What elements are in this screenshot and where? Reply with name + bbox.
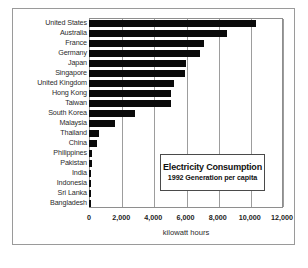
y-axis-label: Pakistan — [14, 159, 87, 167]
bar — [89, 50, 200, 57]
y-axis-label: Bangladesh — [14, 199, 87, 207]
y-axis-label: Malaysia — [14, 119, 87, 127]
bar — [89, 190, 91, 197]
x-axis-title: kilowatt hours — [89, 228, 283, 237]
y-axis-label: Sri Lanka — [14, 189, 87, 197]
x-axis-tick-label: 12,000 — [271, 213, 293, 222]
y-axis-label: South Korea — [14, 109, 87, 117]
x-axis-tick-label: 4,000 — [144, 213, 162, 222]
bar — [89, 70, 185, 77]
y-axis-label: United Kingdom — [14, 79, 87, 87]
bar — [89, 20, 256, 27]
bar — [89, 30, 227, 37]
bar — [89, 100, 171, 107]
y-axis-category-labels: United StatesAustraliaFranceGermanyJapan… — [14, 18, 87, 208]
legend-title: Electricity Consumption — [163, 162, 262, 173]
y-axis-label: Germany — [14, 49, 87, 57]
x-axis-tick-label: 2,000 — [112, 213, 130, 222]
bar — [89, 60, 186, 67]
bar — [89, 90, 171, 97]
bar — [89, 180, 91, 187]
x-axis-tick-label: 6,000 — [177, 213, 195, 222]
y-axis-label: France — [14, 39, 87, 47]
legend-subtitle: 1992 Generation per capita — [168, 173, 257, 183]
x-axis-tick-labels: 02,0004,0006,0008,00010,00012,000 — [0, 213, 308, 225]
x-axis-tick-label: 10,000 — [239, 213, 261, 222]
y-axis-label: Taiwan — [14, 99, 87, 107]
y-axis-label: Indonesia — [14, 179, 87, 187]
y-axis-label: India — [14, 169, 87, 177]
y-axis-label: Singapore — [14, 69, 87, 77]
bar — [89, 120, 115, 127]
bar — [89, 130, 99, 137]
x-axis-tick-label: 8,000 — [209, 213, 227, 222]
y-axis-label: Japan — [14, 59, 87, 67]
x-axis-tick-label: 0 — [87, 213, 91, 222]
bar — [89, 160, 92, 167]
y-axis-label: Thailand — [14, 129, 87, 137]
y-axis-label: China — [14, 139, 87, 147]
legend-callout-box: Electricity Consumption 1992 Generation … — [160, 154, 265, 191]
y-axis-label: Australia — [14, 29, 87, 37]
bar — [89, 80, 174, 87]
y-axis-label: Philippines — [14, 149, 87, 157]
y-axis-label: Hong Kong — [14, 89, 87, 97]
chart-figure: United StatesAustraliaFranceGermanyJapan… — [0, 0, 308, 268]
bar — [89, 110, 135, 117]
bar — [89, 140, 97, 147]
bar — [89, 40, 204, 47]
bar — [89, 200, 91, 207]
bar — [89, 150, 92, 157]
y-axis-label: United States — [14, 19, 87, 27]
gridline-12000 — [283, 19, 284, 207]
bar — [89, 170, 91, 177]
